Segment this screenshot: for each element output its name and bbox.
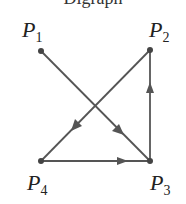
node-p1 bbox=[38, 48, 44, 54]
arrow-icon-p4-p3 bbox=[117, 157, 128, 165]
node-p2 bbox=[147, 47, 153, 53]
node-p4 bbox=[38, 158, 44, 164]
node-label-p4: P4 bbox=[27, 170, 47, 199]
node-p3 bbox=[147, 158, 153, 164]
node-label-p1: P1 bbox=[22, 17, 42, 46]
node-label-p3: P3 bbox=[150, 170, 170, 199]
arrow-icon-p3-p2 bbox=[146, 82, 154, 93]
node-label-p2: P2 bbox=[149, 17, 169, 46]
